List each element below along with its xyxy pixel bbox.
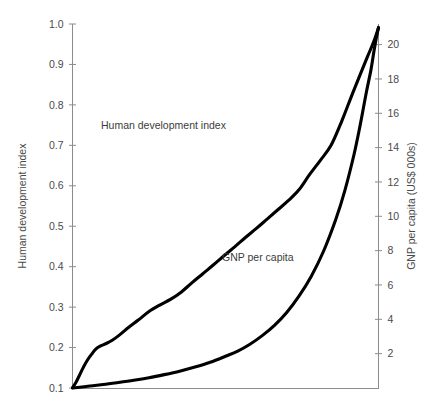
right-tick-label: 14 — [388, 141, 400, 153]
chart-container: 0.10.20.30.40.50.60.70.80.91.0 246810121… — [0, 0, 428, 416]
left-tick-label: 0.1 — [49, 382, 64, 394]
right-tick-label: 4 — [388, 313, 394, 325]
left-axis-title: Human development index — [16, 143, 28, 269]
left-tick-label: 0.3 — [49, 301, 64, 313]
left-tick-label: 0.8 — [49, 99, 64, 111]
left-tick-label: 0.2 — [49, 341, 64, 353]
right-tick-label: 16 — [388, 107, 400, 119]
right-tick-label: 18 — [388, 73, 400, 85]
left-tick-label: 0.6 — [49, 179, 64, 191]
right-axis-title: GNP per capita (US$ 000s) — [405, 142, 417, 270]
dual-axis-line-chart: 0.10.20.30.40.50.60.70.80.91.0 246810121… — [0, 0, 428, 416]
right-tick-label: 6 — [388, 279, 394, 291]
right-tick-label: 2 — [388, 347, 394, 359]
left-tick-label: 0.4 — [49, 260, 64, 272]
right-tick-label: 8 — [388, 244, 394, 256]
gnp-series-annotation: GNP per capita — [222, 251, 294, 263]
left-tick-label: 1.0 — [49, 18, 64, 30]
left-tick-label: 0.5 — [49, 220, 64, 232]
right-tick-label: 20 — [388, 38, 400, 50]
right-tick-label: 12 — [388, 176, 400, 188]
left-tick-label: 0.9 — [49, 58, 64, 70]
right-tick-label: 10 — [388, 210, 400, 222]
hdi-series-annotation: Human development index — [101, 119, 227, 131]
left-tick-label: 0.7 — [49, 139, 64, 151]
